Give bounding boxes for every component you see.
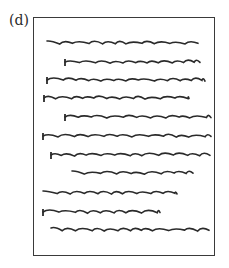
scribble-line bbox=[47, 41, 198, 44]
scribble-line bbox=[65, 115, 211, 118]
scribble-line bbox=[44, 96, 189, 99]
scribble-line bbox=[43, 210, 160, 213]
scribble-line bbox=[51, 153, 210, 156]
scribble-line bbox=[51, 228, 209, 232]
scribble-line bbox=[43, 191, 177, 194]
scribble-line bbox=[65, 60, 200, 63]
scribble-line bbox=[72, 171, 193, 174]
scribble-line bbox=[47, 78, 205, 81]
scribble-line bbox=[43, 134, 211, 137]
scribble-lines bbox=[0, 0, 229, 268]
